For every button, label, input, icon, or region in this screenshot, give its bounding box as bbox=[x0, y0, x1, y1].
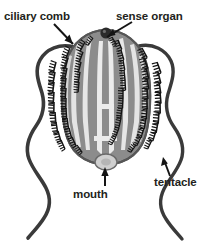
label-mouth: mouth bbox=[73, 189, 108, 201]
label-ciliary-comb: ciliary comb bbox=[4, 11, 70, 23]
sense-organ bbox=[100, 27, 111, 38]
arrow-tentacle bbox=[161, 157, 170, 176]
mouth bbox=[95, 154, 117, 170]
arrow-ciliary-comb bbox=[54, 24, 73, 44]
label-tentacle: tentacle bbox=[154, 177, 197, 189]
comb-jelly-anatomy-diagram bbox=[0, 0, 215, 247]
label-sense-organ: sense organ bbox=[116, 11, 183, 23]
